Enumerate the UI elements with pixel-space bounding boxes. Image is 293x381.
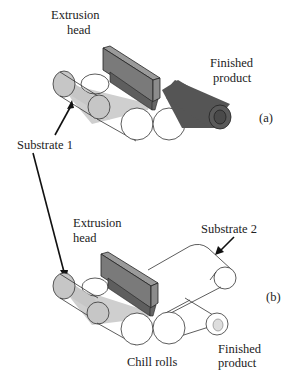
panel-b: Extrusion head Substrate 2 (b) Chill rol… [53,216,281,370]
substrate-1-roll [53,71,110,120]
label-finished-b-2: product [218,356,257,370]
label-finished-b-1: Finished [218,342,262,356]
finished-product-roll-b [206,313,228,335]
label-panel-a: (a) [259,111,273,125]
label-extrusion-head-b-1: Extrusion [73,216,122,230]
label-extrusion-head-b-2: head [73,231,97,245]
label-finished-a-2: product [213,71,252,85]
label-panel-b: (b) [266,290,281,304]
arrow-substrate-1-a [55,100,74,135]
label-substrate-1: Substrate 1 [17,138,73,152]
arrow-substrate-1-b [33,153,68,280]
chill-roll-right-b [153,312,185,344]
label-extrusion-head-a-1: Extrusion [51,8,100,22]
chill-roll-left [121,108,153,140]
label-substrate-2: Substrate 2 [201,222,257,236]
panel-a: Extrusion head Finished product (a) [51,8,273,141]
arrow-substrate-2 [215,237,234,255]
extrusion-coating-diagram: Extrusion head Finished product (a) Subs… [0,0,293,381]
label-chill-rolls: Chill rolls [127,355,177,369]
substrate-2-web [148,244,236,316]
label-finished-a-1: Finished [210,56,254,70]
label-extrusion-head-a-2: head [67,23,91,37]
chill-roll-left-b [121,313,153,345]
